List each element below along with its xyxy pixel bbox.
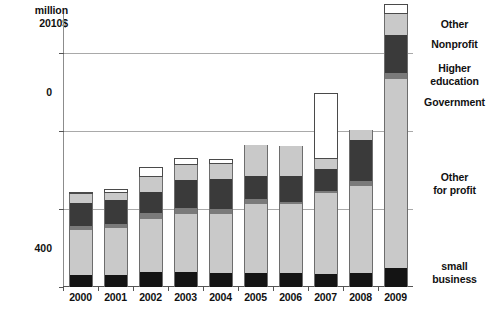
legend-entry-small_business: small business: [413, 260, 496, 285]
bar-segment: [384, 14, 408, 35]
bar-segment: [314, 169, 338, 190]
x-tick-label-2005: 2005: [244, 291, 268, 303]
bar-segment: [349, 130, 373, 141]
bar-segment: [244, 273, 268, 287]
bar-segment: [279, 204, 303, 273]
legend-entry-other_for_profit: Other for profit: [413, 171, 496, 196]
bar-segment: [244, 204, 268, 273]
legend-entry-nonprofit: Nonprofit: [413, 38, 496, 51]
y-tick-label-1200: 0: [46, 86, 52, 98]
bar-segment: [209, 179, 233, 208]
x-tick-label-2000: 2000: [69, 291, 93, 303]
bar-segment: [384, 79, 408, 268]
x-tick-label-2008: 2008: [349, 291, 373, 303]
bar-group: 2002: [139, 167, 163, 287]
bar-segment: [69, 194, 93, 203]
x-tick-mark: [133, 287, 134, 291]
x-tick-mark: [98, 287, 99, 291]
bar-segment: [104, 228, 128, 275]
bar-segment: [349, 273, 373, 287]
y-axis-unit-caption: million 2010$: [8, 4, 68, 29]
bar-segment: [69, 203, 93, 225]
legend-entry-higher_education: Higher education: [413, 62, 496, 87]
legend: OtherNonprofitHigher educationGovernment…: [413, 0, 496, 314]
bar-segment: [209, 273, 233, 287]
legend-entry-government: Government: [413, 96, 496, 109]
y-tick-label-800: 400: [34, 242, 52, 254]
bar-segment: [104, 193, 128, 201]
bar-segment: [314, 274, 338, 287]
x-tick-label-2002: 2002: [139, 291, 163, 303]
bar-segment: [279, 146, 303, 176]
bar-segment: [349, 140, 373, 181]
bar-segment: [104, 275, 128, 287]
bar-segment: [349, 186, 373, 274]
bar-series-container: 2000200120022003200420052006200720082009: [63, 14, 413, 287]
bar-group: 2008: [349, 130, 373, 287]
bar-segment: [139, 272, 163, 287]
bar-segment: [69, 275, 93, 287]
bar-segment: [384, 4, 408, 14]
x-tick-label-2006: 2006: [279, 291, 303, 303]
bar-segment: [174, 165, 198, 181]
bar-group: 2000: [69, 192, 93, 287]
plot-area: 1,2008004000 200020012002200320042005200…: [63, 14, 413, 287]
bar-group: 2005: [244, 145, 268, 287]
x-tick-label-2004: 2004: [209, 291, 233, 303]
x-tick-mark: [63, 287, 64, 291]
stacked-bar-chart: million 2010$ 1,2008004000 2000200120022…: [0, 0, 496, 314]
x-tick-mark: [343, 287, 344, 291]
x-tick-mark: [378, 287, 379, 291]
bar-segment: [69, 230, 93, 275]
bar-group: 2007: [314, 93, 338, 287]
bar-segment: [139, 219, 163, 273]
bar-segment: [104, 200, 128, 223]
bar-segment: [279, 176, 303, 202]
bar-segment: [139, 192, 163, 213]
bar-group: 2003: [174, 158, 198, 287]
bar-segment: [314, 193, 338, 274]
bar-segment: [209, 164, 233, 180]
bar-segment: [384, 35, 408, 72]
bar-group: 2001: [104, 189, 128, 287]
x-tick-label-2003: 2003: [174, 291, 198, 303]
bar-segment: [314, 93, 338, 159]
bar-segment: [174, 272, 198, 287]
x-tick-mark: [238, 287, 239, 291]
x-tick-mark: [308, 287, 309, 291]
legend-entry-other: Other: [413, 18, 496, 31]
x-tick-mark: [273, 287, 274, 291]
bar-segment: [384, 268, 408, 287]
bar-segment: [244, 176, 268, 199]
x-tick-label-2001: 2001: [104, 291, 128, 303]
bar-group: 2004: [209, 159, 233, 287]
x-tick-mark: [168, 287, 169, 291]
bar-segment: [139, 177, 163, 192]
bar-segment: [139, 167, 163, 177]
x-tick-label-2007: 2007: [314, 291, 338, 303]
bar-segment: [314, 159, 338, 169]
bar-segment: [174, 214, 198, 272]
bar-segment: [209, 214, 233, 273]
bar-group: 2006: [279, 146, 303, 287]
bar-segment: [244, 145, 268, 176]
bar-segment: [279, 273, 303, 287]
bar-group: 2009: [384, 4, 408, 287]
figure-caption-cutoff: [20, 307, 420, 314]
bar-segment: [174, 158, 198, 165]
x-tick-label-2009: 2009: [384, 291, 408, 303]
bar-segment: [174, 180, 198, 208]
x-tick-mark: [203, 287, 204, 291]
bar-segment: [384, 73, 408, 80]
